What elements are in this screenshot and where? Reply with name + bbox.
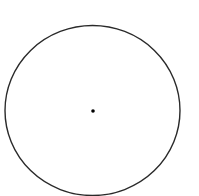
circle-diagram bbox=[0, 0, 199, 196]
center-point bbox=[91, 109, 95, 113]
